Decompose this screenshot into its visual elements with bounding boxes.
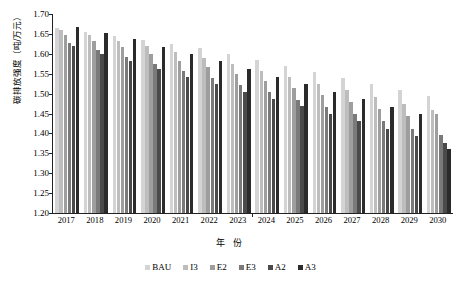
bar-a3-2022	[219, 61, 222, 213]
y-tick-mark	[49, 213, 53, 214]
legend-swatch-icon	[298, 265, 303, 270]
legend-label: A2	[275, 262, 286, 272]
x-tick-mark	[252, 214, 253, 217]
bar-i3-2025	[288, 77, 291, 213]
x-axis-title: 年 份	[0, 236, 461, 249]
bar-groups	[53, 14, 453, 213]
x-tick-label: 2022	[195, 215, 224, 225]
bar-i3-2021	[174, 52, 177, 213]
bar-a2-2019	[129, 61, 132, 213]
bar-a2-2021	[186, 77, 189, 214]
bar-e3-2028	[382, 121, 385, 213]
legend-item-a2[interactable]: A2	[268, 262, 286, 272]
y-tick-label: 1.35	[19, 149, 49, 158]
bar-i3-2020	[145, 46, 148, 213]
bar-a2-2024	[272, 99, 275, 213]
legend-item-i3[interactable]: I3	[183, 262, 198, 272]
bar-bau-2028	[370, 84, 373, 213]
x-tick-label: 2017	[52, 215, 81, 225]
bar-e2-2028	[378, 109, 381, 213]
bar-e2-2030	[435, 114, 438, 213]
legend-swatch-icon	[145, 265, 150, 270]
bar-e2-2018	[92, 41, 95, 213]
bar-group	[224, 14, 253, 213]
bar-i3-2022	[202, 58, 205, 213]
legend-label: E3	[246, 262, 256, 272]
y-tick-label: 1.65	[19, 29, 49, 38]
bar-a3-2021	[190, 54, 193, 213]
x-tick-label: 2029	[395, 215, 424, 225]
bar-e3-2025	[296, 100, 299, 213]
bar-i3-2018	[88, 35, 91, 213]
bar-i3-2024	[260, 71, 263, 213]
x-tick-label: 2018	[81, 215, 110, 225]
bar-a3-2019	[133, 39, 136, 213]
bar-e3-2020	[153, 64, 156, 213]
x-tick-label: 2019	[109, 215, 138, 225]
bar-a3-2027	[362, 99, 365, 213]
y-tick-label: 1.60	[19, 49, 49, 58]
x-tick-label: 2024	[252, 215, 281, 225]
bar-bau-2017	[55, 28, 58, 213]
bar-bau-2019	[113, 36, 116, 213]
bar-i3-2028	[374, 97, 377, 213]
legend-item-e3[interactable]: E3	[239, 262, 256, 272]
bar-a3-2017	[76, 27, 79, 213]
bar-e2-2022	[206, 67, 209, 213]
bar-e3-2029	[411, 129, 414, 213]
bar-i3-2019	[117, 41, 120, 213]
bar-group	[310, 14, 339, 213]
bar-e3-2030	[439, 135, 442, 213]
x-tick-label: 2025	[281, 215, 310, 225]
bar-a2-2020	[157, 69, 160, 213]
bar-a3-2029	[419, 114, 422, 213]
bar-e2-2026	[321, 95, 324, 213]
x-tick-label: 2021	[166, 215, 195, 225]
bar-a3-2030	[447, 149, 450, 213]
bar-a2-2018	[100, 54, 103, 213]
bar-i3-2030	[431, 110, 434, 213]
x-tick-label: 2030	[424, 215, 453, 225]
legend-label: I3	[190, 262, 198, 272]
bar-a2-2025	[300, 106, 303, 213]
bar-a3-2023	[247, 69, 250, 213]
bar-e3-2026	[325, 107, 328, 213]
bar-a2-2017	[72, 46, 75, 213]
bar-a3-2026	[333, 92, 336, 213]
bar-group	[167, 14, 196, 213]
bar-e3-2024	[268, 92, 271, 213]
bar-bau-2024	[255, 60, 258, 213]
bar-e3-2021	[182, 71, 185, 213]
bar-i3-2026	[317, 84, 320, 213]
x-tick-label: 2026	[309, 215, 338, 225]
bar-e2-2024	[264, 81, 267, 213]
legend-swatch-icon	[210, 265, 215, 270]
bar-bau-2020	[141, 40, 144, 213]
bar-e2-2023	[235, 74, 238, 213]
legend-label: A3	[305, 262, 316, 272]
bar-group	[53, 14, 82, 213]
bar-group	[253, 14, 282, 213]
bar-e3-2027	[353, 114, 356, 213]
bar-bau-2026	[313, 72, 316, 213]
y-tick-label: 1.50	[19, 89, 49, 98]
legend-item-bau[interactable]: BAU	[145, 262, 171, 272]
bar-group	[139, 14, 168, 213]
bar-i3-2017	[59, 30, 62, 213]
legend-item-e2[interactable]: E2	[210, 262, 227, 272]
bar-i3-2023	[231, 64, 234, 213]
legend-swatch-icon	[239, 265, 244, 270]
bar-bau-2025	[284, 66, 287, 213]
bar-e3-2018	[96, 50, 99, 213]
x-axis-ticks: 2017201820192020202120222023202420252026…	[52, 215, 452, 225]
plot-area: 1.701.651.601.551.501.451.401.351.301.25…	[52, 14, 453, 214]
legend-swatch-icon	[268, 265, 273, 270]
y-tick-label: 1.25	[19, 189, 49, 198]
bar-e3-2022	[211, 78, 214, 213]
y-tick-label: 1.45	[19, 109, 49, 118]
bar-e3-2017	[68, 43, 71, 213]
y-tick-label: 1.70	[19, 10, 49, 19]
bar-bau-2027	[341, 78, 344, 213]
bar-a3-2020	[162, 47, 165, 213]
legend-item-a3[interactable]: A3	[298, 262, 316, 272]
